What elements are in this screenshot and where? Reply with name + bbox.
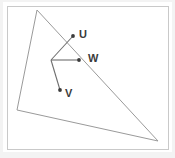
vector-v-arrowhead — [58, 88, 62, 92]
vector-u-arrowhead — [71, 34, 75, 38]
diagram-canvas: U W V — [0, 0, 175, 158]
vector-u-label: U — [79, 28, 87, 40]
diagram-frame — [8, 7, 169, 150]
vector-diagram-figure: U W V — [0, 0, 175, 158]
vector-w-arrowhead — [77, 58, 81, 62]
vector-v-label: V — [65, 87, 73, 99]
vector-w-label: W — [88, 52, 99, 64]
